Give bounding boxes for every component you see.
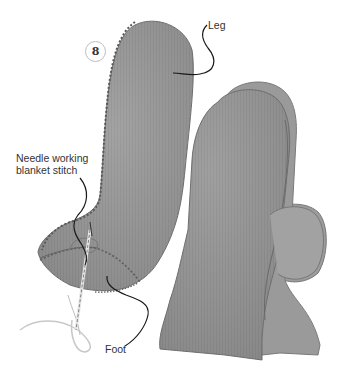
label-needle: Needle working blanket stitch [16, 152, 73, 176]
step-number-badge: 8 [85, 41, 106, 62]
sock-sewing-diagram: 8 Leg Needle working blanket stitch Foot [0, 0, 346, 377]
illustration [0, 0, 346, 377]
step-number: 8 [92, 45, 100, 58]
label-needle-line2: blanket stitch [16, 164, 73, 176]
label-leg: Leg [208, 19, 226, 31]
label-foot: Foot [105, 343, 126, 355]
label-needle-line1: Needle working [16, 152, 73, 164]
